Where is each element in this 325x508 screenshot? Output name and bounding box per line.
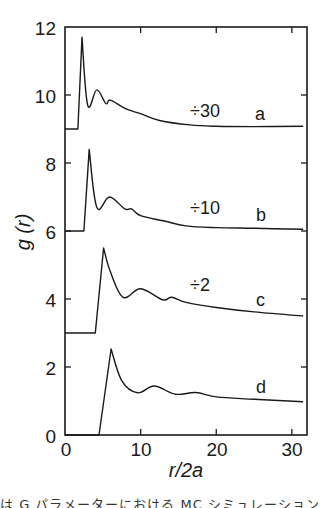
curve-b	[65, 149, 303, 231]
y-tick-10: 10	[35, 86, 56, 107]
curve-c-scale: ÷2	[190, 275, 210, 295]
figure-caption-fragment: は G パラメーターにおける MC シミュレーション	[0, 494, 325, 508]
y-tick-8: 8	[45, 154, 56, 175]
curve-b-scale: ÷10	[190, 198, 220, 218]
y-axis-title: g (r)	[12, 214, 34, 251]
curve-d-label: d	[256, 377, 266, 397]
y-tick-0: 0	[45, 426, 56, 447]
curve-annotations: ÷30 a ÷10 b ÷2 c d	[190, 101, 266, 397]
x-tick-labels: 0 10 20 30	[61, 439, 303, 460]
y-tick-labels: 12 10 8 6 4 2 0	[35, 18, 57, 447]
axis-ticks	[65, 27, 307, 435]
y-tick-4: 4	[45, 290, 56, 311]
curve-d	[65, 349, 303, 435]
x-tick-0: 0	[61, 439, 72, 460]
plot-frame	[65, 27, 307, 435]
curve-c	[65, 248, 303, 333]
curve-b-label: b	[256, 205, 266, 225]
curves	[65, 37, 303, 435]
x-tick-30: 30	[281, 439, 302, 460]
curve-a	[65, 37, 303, 129]
curve-c-label: c	[256, 290, 265, 310]
curve-a-label: a	[255, 104, 266, 124]
y-tick-12: 12	[35, 18, 56, 39]
x-axis-title: r/2a	[169, 459, 203, 481]
y-tick-6: 6	[45, 222, 56, 243]
curve-a-scale: ÷30	[190, 101, 220, 121]
x-tick-20: 20	[206, 439, 227, 460]
y-tick-2: 2	[45, 358, 56, 379]
x-tick-10: 10	[130, 439, 151, 460]
